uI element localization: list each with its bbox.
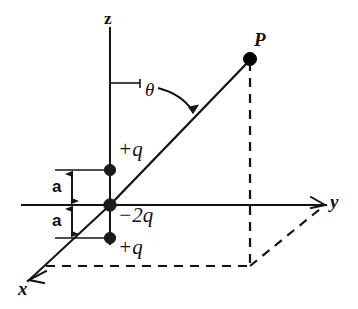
quadrupole-figure: z y x P θ +q −2q +q a a bbox=[0, 0, 358, 309]
y-axis-arrowhead bbox=[311, 197, 325, 208]
x-axis-label: x bbox=[18, 279, 28, 298]
xy-plane-right-edge-dashed bbox=[250, 209, 320, 266]
charge-dot-upper-plus-q bbox=[104, 164, 115, 175]
origin-to-p-line bbox=[110, 60, 250, 205]
charge-dot-lower-plus-q bbox=[104, 232, 115, 243]
diagram-canvas bbox=[0, 0, 358, 309]
theta-angle-label: θ bbox=[145, 80, 154, 99]
x-axis-line bbox=[28, 205, 110, 281]
theta-arc-arrow bbox=[158, 88, 192, 110]
z-axis-label: z bbox=[104, 10, 112, 27]
charge-label-upper-plus-q: +q bbox=[118, 139, 143, 160]
dimension-label-lower-a: a bbox=[52, 212, 61, 229]
charge-label-lower-plus-q: +q bbox=[118, 237, 143, 258]
y-axis-label: y bbox=[330, 192, 338, 211]
charge-label-center-minus-2q: −2q bbox=[118, 205, 153, 226]
dimension-label-upper-a: a bbox=[52, 178, 61, 195]
field-point-dot bbox=[244, 53, 257, 66]
charge-dot-center-minus-2q bbox=[104, 199, 116, 211]
field-point-label: P bbox=[254, 30, 266, 49]
